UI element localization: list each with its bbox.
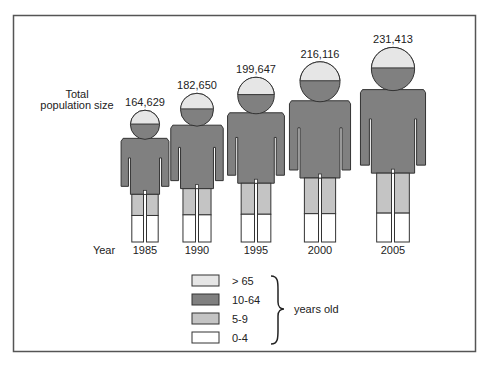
leg-5-9 — [199, 189, 212, 215]
year-axis-label: Year — [93, 244, 116, 256]
legend-swatch — [192, 275, 219, 286]
leg-5-9 — [377, 173, 392, 213]
leg-5-9 — [132, 194, 144, 215]
leg-5-9 — [322, 178, 336, 214]
total-label: 199,647 — [236, 63, 276, 75]
legend-suffix: years old — [294, 303, 339, 315]
leg-0-4 — [132, 215, 144, 242]
crotch-gap — [144, 190, 147, 194]
torso-10-64 — [121, 138, 169, 194]
leg-5-9 — [241, 183, 254, 214]
leg-0-4 — [322, 214, 336, 242]
leg-5-9 — [183, 189, 196, 215]
total-label: 164,629 — [125, 96, 165, 108]
crotch-gap — [319, 174, 322, 178]
year-tick-label: 2005 — [381, 244, 405, 256]
legend-label: 10-64 — [232, 294, 260, 306]
total-label: 216,116 — [301, 48, 340, 60]
crotch-gap — [196, 185, 199, 189]
legend-label: 5-9 — [232, 313, 248, 325]
year-tick-label: 1990 — [185, 244, 209, 256]
leg-0-4 — [395, 213, 410, 242]
legend-swatch — [192, 294, 219, 305]
leg-5-9 — [304, 178, 318, 214]
legend-label: 0-4 — [232, 332, 248, 344]
crotch-gap — [392, 169, 395, 173]
legend-swatch — [192, 332, 219, 343]
leg-5-9 — [395, 173, 410, 213]
crotch-gap — [255, 179, 258, 183]
year-tick-label: 1985 — [133, 244, 157, 256]
year-tick-label: 1995 — [244, 244, 268, 256]
leg-0-4 — [377, 213, 392, 242]
leg-0-4 — [183, 215, 196, 242]
leg-0-4 — [199, 215, 212, 242]
legend-label: > 65 — [232, 275, 254, 287]
year-tick-label: 2000 — [308, 244, 332, 256]
leg-5-9 — [147, 194, 159, 215]
torso-10-64 — [171, 125, 223, 188]
leg-5-9 — [258, 183, 271, 214]
leg-0-4 — [147, 215, 159, 242]
total-label: 231,413 — [373, 33, 413, 45]
torso-10-64 — [228, 113, 285, 183]
leg-0-4 — [304, 214, 318, 242]
leg-0-4 — [241, 214, 254, 242]
leg-0-4 — [258, 214, 271, 242]
population-label-line2: population size — [40, 99, 113, 111]
population-pictogram-chart: Total population size Year 164,629198518… — [0, 0, 490, 366]
legend-swatch — [192, 313, 219, 324]
total-label: 182,650 — [177, 79, 217, 91]
